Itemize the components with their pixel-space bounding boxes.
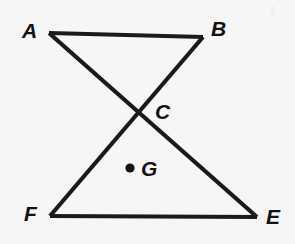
- segment-BF: [50, 37, 203, 216]
- point-label-G: G: [141, 157, 157, 180]
- vertex-label-F: F: [24, 202, 38, 225]
- segment-FE: [50, 216, 257, 217]
- point-G-dot: [125, 163, 134, 172]
- vertex-label-B: B: [211, 17, 226, 40]
- geometry-diagram: A B C G F E: [0, 0, 295, 244]
- vertex-label-C: C: [155, 100, 171, 123]
- vertex-label-E: E: [266, 205, 281, 228]
- vertex-label-A: A: [21, 19, 37, 42]
- segment-AB: [49, 33, 203, 37]
- geometry-figure-container: A B C G F E: [0, 0, 295, 244]
- segment-AE: [49, 33, 257, 217]
